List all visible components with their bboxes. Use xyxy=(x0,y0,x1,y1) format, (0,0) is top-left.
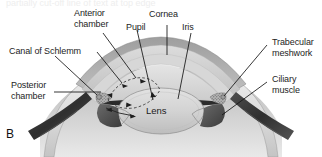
label-cornea-text: Cornea xyxy=(149,9,178,19)
label-iris: Iris xyxy=(182,22,194,33)
panel-label: B xyxy=(6,127,14,141)
label-anterior-chamber-line1: Anterior xyxy=(74,8,105,18)
label-pupil-text: Pupil xyxy=(126,22,146,32)
label-lens-text: Lens xyxy=(146,105,167,116)
label-canal-of-schlemm: Canal of Schlemm xyxy=(9,46,81,57)
label-posterior-chamber-line1: Posterior xyxy=(11,80,46,90)
label-canal-of-schlemm-text: Canal of Schlemm xyxy=(9,46,81,56)
label-posterior-chamber-line2: chamber xyxy=(11,91,45,101)
label-posterior-chamber: Posteriorchamber xyxy=(11,80,46,101)
label-anterior-chamber-line2: chamber xyxy=(74,19,108,29)
label-cornea: Cornea xyxy=(149,9,178,20)
label-anterior-chamber: Anteriorchamber xyxy=(74,8,108,29)
label-lens: Lens xyxy=(146,105,167,116)
label-trabecular-meshwork: Trabecularmeshwork xyxy=(272,37,314,58)
label-trabecular-meshwork-line2: meshwork xyxy=(272,48,312,58)
figure-panel-b: partially cut-off line of text at top ed… xyxy=(0,0,322,157)
label-ciliary-muscle-line2: muscle xyxy=(272,85,300,95)
panel-label-text: B xyxy=(6,127,14,141)
label-pupil: Pupil xyxy=(126,22,146,33)
label-ciliary-muscle-line1: Ciliary xyxy=(272,74,296,84)
label-trabecular-meshwork-line1: Trabecular xyxy=(272,37,314,47)
label-ciliary-muscle: Ciliarymuscle xyxy=(272,74,300,95)
label-iris-text: Iris xyxy=(182,22,194,32)
